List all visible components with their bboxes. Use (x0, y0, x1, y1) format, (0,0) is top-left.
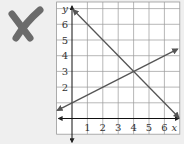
y-tick-label: 6 (62, 19, 68, 30)
x-tick-label: 4 (130, 122, 136, 133)
x-tick-label: 6 (161, 122, 167, 133)
y-tick-label: 2 (62, 82, 68, 93)
y-tick-label: 5 (62, 35, 68, 46)
x-tick-label: 5 (146, 122, 152, 133)
y-tick-label: 4 (62, 50, 68, 61)
x-axis-label: x (172, 122, 178, 133)
x-tick-label: 3 (115, 122, 121, 133)
y-axis-label: y (61, 3, 68, 14)
x-tick-label: 1 (84, 122, 90, 133)
y-tick-label: 3 (62, 66, 68, 77)
x-mark-icon (12, 10, 43, 38)
graph-canvas: 123456x23456y (0, 0, 184, 144)
x-tick-label: 2 (100, 122, 106, 133)
